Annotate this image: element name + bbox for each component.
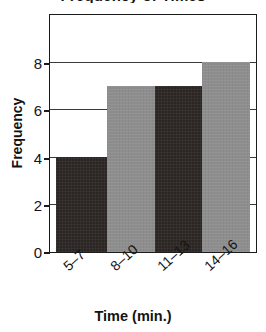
bar-11-13 [155, 86, 202, 252]
x-axis-title: Time (min.) [0, 308, 266, 324]
y-tick-label-2: 2 [22, 198, 42, 213]
y-tick-label-6: 6 [22, 103, 42, 118]
bar-5-7 [56, 157, 107, 252]
plot-area [49, 14, 257, 253]
y-tick-label-8: 8 [22, 56, 42, 71]
bar-14-16 [202, 62, 250, 252]
y-axis-tick-labels: 0 2 4 6 8 [22, 0, 42, 332]
bar-8-10 [107, 86, 155, 252]
bar-chart-figure: Frequency of Times Frequency 0 2 4 6 8 5… [0, 0, 266, 332]
y-tick-label-0: 0 [22, 245, 42, 260]
y-tick-label-4: 4 [22, 151, 42, 166]
